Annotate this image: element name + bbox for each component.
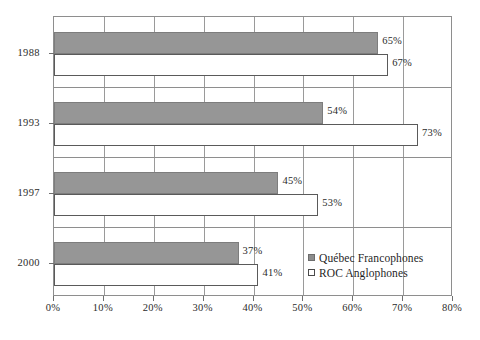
bar-value-label-2000-series-1: 41% [262, 268, 282, 279]
y-axis-tick-label-1993: 1993 [17, 117, 40, 128]
y-axis-tickmark [49, 263, 54, 264]
x-axis-tick-label: 40% [242, 302, 262, 313]
legend-label-quebec-francophones: Québec Francophones [319, 252, 423, 264]
x-axis-tickmark [253, 296, 254, 301]
bar-1988-series-1 [54, 54, 388, 76]
x-axis-tick-label: 70% [392, 302, 412, 313]
y-axis-tickmark [49, 123, 54, 124]
bar-value-label-1993-series-1: 73% [422, 128, 442, 139]
bar-value-label-1997-series-1: 53% [322, 198, 342, 209]
x-axis-tick-label: 80% [442, 302, 462, 313]
bar-1997-series-1 [54, 194, 318, 216]
bar-1988-series-0 [54, 32, 378, 54]
y-axis-tickmark [49, 193, 54, 194]
y-axis-tick-label-1997: 1997 [17, 187, 40, 198]
x-axis-tickmark [203, 296, 204, 301]
y-axis-tick-label-2000: 2000 [17, 257, 40, 268]
bar-2000-series-1 [54, 264, 258, 286]
x-axis-tickmark [402, 296, 403, 301]
legend-label-roc-anglophones: ROC Anglophones [319, 267, 408, 279]
x-axis-tick-label: 0% [46, 302, 61, 313]
y-axis-tick-labels: 1988199319972000 [0, 16, 48, 296]
y-axis-tickmark [49, 53, 54, 54]
x-axis-tickmark [352, 296, 353, 301]
bar-1993-series-0 [54, 102, 323, 124]
x-axis-tickmark [452, 296, 453, 301]
bar-chart: 1988199319972000 0%10%20%30%40%50%60%70%… [0, 0, 480, 340]
x-axis-tick-label: 60% [342, 302, 362, 313]
bar-1993-series-1 [54, 124, 418, 146]
legend-swatch-icon-roc-anglophones [308, 269, 315, 276]
horizontal-gridline [54, 157, 451, 158]
x-axis-tickmark [53, 296, 54, 301]
legend-item-quebec-francophones: Québec Francophones [308, 250, 423, 265]
chart-legend: Québec Francophones ROC Anglophones [308, 250, 423, 280]
x-axis-tickmark [302, 296, 303, 301]
horizontal-gridline [54, 87, 451, 88]
x-axis-tick-label: 20% [143, 302, 163, 313]
horizontal-gridline [54, 227, 451, 228]
x-axis-tick-label: 10% [93, 302, 113, 313]
bar-value-label-1988-series-1: 67% [392, 58, 412, 69]
legend-item-roc-anglophones: ROC Anglophones [308, 265, 423, 280]
bar-1997-series-0 [54, 172, 278, 194]
y-axis-tick-label-1988: 1988 [17, 47, 40, 58]
bar-value-label-2000-series-0: 37% [243, 246, 263, 257]
legend-swatch-icon-quebec-francophones [308, 254, 315, 261]
bar-2000-series-0 [54, 242, 239, 264]
bar-value-label-1988-series-0: 65% [382, 36, 402, 47]
x-axis-tick-label: 30% [193, 302, 213, 313]
x-axis-tickmark [153, 296, 154, 301]
x-axis-tick-label: 50% [292, 302, 312, 313]
bar-value-label-1997-series-0: 45% [282, 176, 302, 187]
bar-value-label-1993-series-0: 54% [327, 106, 347, 117]
x-axis-tickmark [103, 296, 104, 301]
